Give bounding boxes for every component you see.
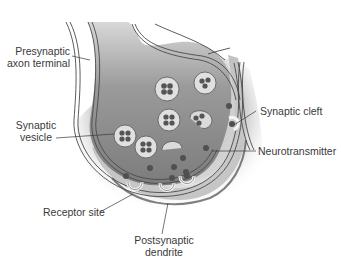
label-text: vesicle [14, 131, 58, 143]
label-postsynaptic-dendrite: Postsynaptic dendrite [129, 234, 199, 258]
label-receptor-site: Receptor site [43, 206, 105, 218]
vesicle [135, 136, 157, 158]
label-text: Synaptic cleft [260, 105, 322, 117]
label-text: Receptor site [43, 206, 105, 218]
label-text: Postsynaptic [129, 234, 199, 246]
label-neurotransmitter: Neurotransmitter [258, 145, 336, 157]
label-text: Neurotransmitter [258, 145, 336, 157]
label-text: Synaptic [14, 119, 58, 131]
label-text: Presynaptic [6, 45, 70, 57]
label-text: dendrite [129, 246, 199, 258]
label-presynaptic-axon-terminal: Presynaptic axon terminal [6, 45, 70, 69]
label-synaptic-cleft: Synaptic cleft [260, 105, 322, 117]
vesicle [158, 109, 180, 131]
vesicle [194, 72, 216, 94]
vesicle [155, 77, 179, 101]
label-text: axon terminal [6, 57, 70, 69]
synapse-diagram: Presynaptic axon terminal Synaptic vesic… [0, 0, 341, 264]
vesicle [114, 125, 136, 147]
label-synaptic-vesicle: Synaptic vesicle [14, 119, 58, 143]
